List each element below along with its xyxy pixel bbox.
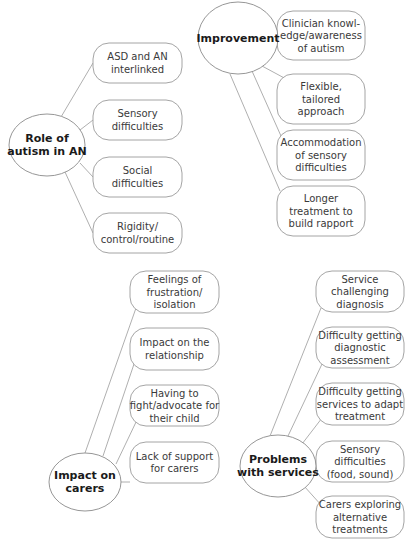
subtheme-label: difficulties [295,162,346,173]
subtheme-label: Rigidity/ [117,221,159,232]
subtheme-label: treatment [335,411,385,422]
subtheme-label: their child [149,413,199,424]
subtheme-label: alternative [333,512,387,523]
subtheme-label: treatment to [289,206,352,217]
subtheme-label: difficulties [112,178,163,189]
subtheme-box: Servicechallengingdiagnosis [316,271,404,312]
theme-node: Improvement [196,2,279,74]
subtheme-box: Difficulty gettingservices to adapttreat… [316,383,404,425]
subtheme-label: Clinician knowl- [282,18,361,29]
subtheme-box: Accommodationof sensorydifficulties [277,130,365,180]
subtheme-label: Carers exploring [319,499,401,510]
subtheme-label: build rapport [289,218,354,229]
subtheme-label: Sensory [117,108,157,119]
subtheme-label: Flexible, [300,81,342,92]
theme-node: Problemswith services [237,435,319,497]
connector-line [270,308,321,436]
subtheme-label: diagnosis [336,299,383,310]
theme-label: with services [237,466,319,479]
subtheme-label: diagnostic [334,342,385,353]
subtheme-box: ASD and ANinterlinked [93,43,182,83]
subtheme-label: fight/advocate for [130,400,220,411]
connector-line [61,63,93,117]
theme-label: Impact on [54,469,116,482]
subtheme-box: Difficulty gettingdiagnosticassessment [316,327,404,368]
subtheme-label: interlinked [111,64,164,75]
theme-label: Problems [249,453,308,466]
subtheme-label: Accommodation [280,137,361,148]
subtheme-box: Impact on therelationship [130,328,219,370]
subtheme-label: Social [123,165,153,176]
subtheme-label: assessment [330,355,389,366]
cluster-impact-on-carers: Feelings offrustration/isolationImpact o… [49,271,220,511]
subtheme-label: Sensory [340,444,380,455]
subtheme-label: difficulties [112,121,163,132]
subtheme-box: Socialdifficulties [93,157,182,197]
subtheme-label: Impact on the [140,337,210,348]
theme-label: Improvement [196,32,279,45]
subtheme-box: Longertreatment tobuild rapport [277,186,365,236]
subtheme-box: Lack of supportfor carers [130,442,219,483]
theme-label: carers [66,482,105,495]
subtheme-box: Feelings offrustration/isolation [130,271,219,313]
theme-label: autism in AN [7,145,86,158]
subtheme-label: edge/awareness [280,30,362,41]
nodes: ASD and ANinterlinkedSensorydifficulties… [7,2,404,538]
subtheme-label: isolation [153,299,195,310]
subtheme-label: approach [298,106,345,117]
subtheme-label: Service [342,274,379,285]
concept-diagram: ASD and ANinterlinkedSensorydifficulties… [0,0,415,545]
subtheme-label: Difficulty getting [318,386,402,397]
subtheme-label: frustration/ [147,287,203,298]
subtheme-label: of autism [298,43,345,54]
subtheme-label: Having to [150,388,198,399]
connector-line [80,163,93,177]
subtheme-box: Sensorydifficulties [93,100,182,140]
subtheme-label: Difficulty getting [318,330,402,341]
subtheme-label: tailored [302,94,340,105]
connector-line [80,120,93,130]
theme-label: Role of [25,132,69,145]
theme-node: Role ofautism in AN [7,114,86,176]
connector-line [302,418,322,444]
subtheme-label: of sensory [295,150,347,161]
subtheme-label: difficulties [334,456,385,467]
connector-line [65,172,93,233]
subtheme-label: Lack of support [136,451,213,462]
subtheme-label: treatments [332,524,387,535]
subtheme-label: relationship [145,350,204,361]
subtheme-box: Sensorydifficulties(food, sound) [316,441,404,482]
subtheme-label: for carers [151,463,199,474]
subtheme-box: Carers exploringalternativetreatments [316,496,404,538]
connector-line [230,74,280,191]
subtheme-box: Rigidity/control/routine [93,213,182,253]
cluster-role-of-autism: ASD and ANinterlinkedSensorydifficulties… [7,43,182,253]
subtheme-label: Longer [304,193,339,204]
theme-node: Impact oncarers [49,453,121,511]
subtheme-label: ASD and AN [107,51,167,62]
subtheme-box: Having tofight/advocate fortheir child [130,385,220,426]
cluster-improvement: Clinician knowl-edge/awarenessof autismF… [196,2,365,236]
subtheme-label: Feelings of [148,274,202,285]
subtheme-label: (food, sound) [327,469,394,480]
subtheme-label: control/routine [101,234,175,245]
subtheme-label: challenging [331,286,389,297]
subtheme-label: services to adapt [317,399,403,410]
cluster-problems-with-services: ServicechallengingdiagnosisDifficulty ge… [237,271,404,538]
subtheme-box: Flexible,tailoredapproach [277,74,365,124]
subtheme-box: Clinician knowl-edge/awarenessof autism [277,11,365,60]
